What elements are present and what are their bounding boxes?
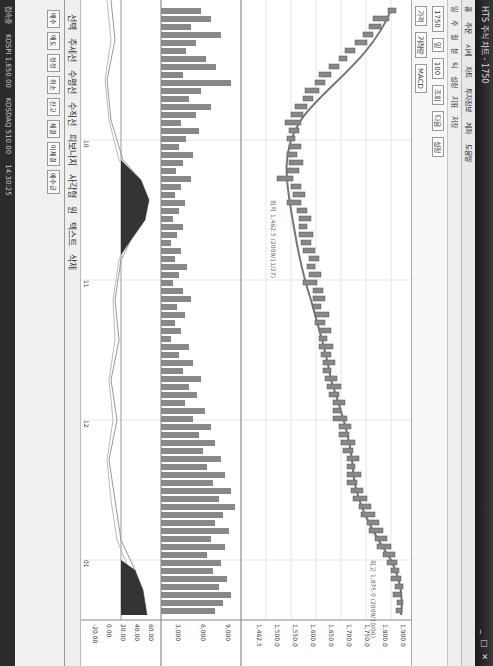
period-week-button[interactable]: 주 xyxy=(448,20,461,26)
window-title: HTS 주식 차트 - 1750 xyxy=(480,6,489,83)
kosdaq-index: KOSDAQ 510.00 xyxy=(0,98,15,154)
deposit-button[interactable]: 예수금 xyxy=(47,170,60,194)
price-axis-label: 1,650.0 xyxy=(328,624,335,647)
modify-button[interactable]: 정정 xyxy=(47,54,60,72)
tab-volume[interactable]: 거래량 xyxy=(415,32,427,58)
period-minute-button[interactable]: 분 xyxy=(448,48,461,54)
menu-item-home[interactable]: 홈 xyxy=(462,6,475,12)
tab-macd[interactable]: MACD xyxy=(415,64,427,93)
status-bar: 접속중 KOSPI 1,650.00 KOSDAQ 510.00 14:30:2… xyxy=(0,0,15,666)
volume-axis-label: 6,000 xyxy=(200,624,207,641)
price-axis-label: 1,600.0 xyxy=(310,624,317,647)
period-day-button[interactable]: 일 xyxy=(448,6,461,12)
hline-tool[interactable]: 수평선 xyxy=(65,70,80,94)
date-label: 11 xyxy=(83,280,90,288)
low-annotation: 최저 1,462.5 (2009/11/27) xyxy=(269,200,277,278)
executed-button[interactable]: 체결 xyxy=(47,120,60,138)
price-axis-label: 1,700.0 xyxy=(346,624,353,647)
osc-axis-label: 60.00 xyxy=(148,624,155,641)
maximize-icon[interactable]: □ xyxy=(475,640,493,648)
kospi-index: KOSPI 1,650.00 xyxy=(0,34,15,88)
date-label: 12 xyxy=(83,420,90,428)
close-icon[interactable]: ✕ xyxy=(475,653,493,660)
menu-bar: 홈 주문 시세 차트 투자정보 계좌 도움말 xyxy=(461,0,475,666)
menu-item-account[interactable]: 계좌 xyxy=(462,122,475,134)
period-select[interactable]: 일 xyxy=(432,38,444,52)
menu-item-order[interactable]: 주문 xyxy=(462,22,475,34)
chart-toolbar: 일 주 월 분 틱 설정 지표 저장 xyxy=(447,0,461,666)
date-label: 01 xyxy=(83,560,90,568)
stock-code-input[interactable]: 1750 xyxy=(432,6,444,32)
indicator-button[interactable]: 지표 xyxy=(448,96,461,108)
balance-button[interactable]: 잔고 xyxy=(47,98,60,116)
order-panel: 매수 매도 정정 취소 잔고 체결 미체결 예수금 xyxy=(14,0,65,666)
settings-button[interactable]: 설정 xyxy=(448,76,461,88)
period-month-button[interactable]: 월 xyxy=(448,34,461,40)
osc-axis-label: 20.00 xyxy=(120,624,127,641)
menu-item-help[interactable]: 도움말 xyxy=(462,144,475,162)
price-axis-label: 1,500.0 xyxy=(274,624,281,647)
price-chart-svg: 1,900.0 1,800.0 1,750.0 1,700.0 1,650.0 … xyxy=(81,0,411,666)
date-label: 10 xyxy=(83,140,90,148)
save-button[interactable]: 저장 xyxy=(448,116,461,128)
trendline-tool[interactable]: 추세선 xyxy=(65,38,80,62)
chart-area[interactable]: 1,900.0 1,800.0 1,750.0 1,700.0 1,650.0 … xyxy=(81,0,411,666)
price-axis-label: 1,800.0 xyxy=(382,624,389,647)
next-button[interactable]: 다음 xyxy=(432,111,444,131)
price-axis-label: 1,550.0 xyxy=(292,624,299,647)
rectangle-tool[interactable]: 사각형 xyxy=(65,174,80,198)
config-button[interactable]: 설정 xyxy=(432,137,444,157)
osc-axis-label: 40.00 xyxy=(134,624,141,641)
vline-tool[interactable]: 수직선 xyxy=(65,102,80,126)
volume-axis-label: 9,000 xyxy=(225,624,232,641)
app-window: HTS 주식 차트 - 1750 _ □ ✕ 홈 주문 시세 차트 투자정보 계… xyxy=(0,0,493,666)
chart-info-bar: 1750 일 100 조회 다음 설정 가격 거래량 MACD xyxy=(411,0,447,666)
fibonacci-tool[interactable]: 피보나치 xyxy=(65,134,80,166)
circle-tool[interactable]: 원 xyxy=(65,206,80,214)
query-button[interactable]: 조회 xyxy=(432,85,444,105)
high-annotation: 최고 1,875.0 (2009/10/06) xyxy=(369,560,377,638)
drawing-toolbar: 선택 추세선 수평선 수직선 피보나치 사각형 원 텍스트 삭제 xyxy=(65,0,81,666)
volume-axis-label: 3,000 xyxy=(175,624,182,641)
osc-axis-label: -20.00 xyxy=(92,624,99,644)
buy-button[interactable]: 매수 xyxy=(47,10,60,28)
tab-price[interactable]: 가격 xyxy=(415,6,427,26)
minimize-icon[interactable]: _ xyxy=(475,630,493,634)
delete-tool[interactable]: 삭제 xyxy=(65,254,80,270)
price-axis-label: 1,900.0 xyxy=(400,624,407,647)
unexecuted-button[interactable]: 미체결 xyxy=(47,142,60,166)
title-bar: HTS 주식 차트 - 1750 _ □ ✕ xyxy=(475,0,493,666)
text-tool[interactable]: 텍스트 xyxy=(65,222,80,246)
sell-button[interactable]: 매도 xyxy=(47,32,60,50)
menu-item-chart[interactable]: 차트 xyxy=(462,66,475,78)
price-axis-label: 1,462.5 xyxy=(256,624,263,647)
select-tool[interactable]: 선택 xyxy=(65,14,80,30)
connection-status: 접속중 xyxy=(0,6,15,24)
cancel-order-button[interactable]: 취소 xyxy=(47,76,60,94)
menu-item-quote[interactable]: 시세 xyxy=(462,44,475,56)
period-tick-button[interactable]: 틱 xyxy=(448,62,461,68)
count-input[interactable]: 100 xyxy=(432,58,444,79)
osc-axis-label: 0.00 xyxy=(106,624,113,638)
clock: 14:30:25 xyxy=(0,164,15,195)
menu-item-info[interactable]: 투자정보 xyxy=(462,88,475,112)
